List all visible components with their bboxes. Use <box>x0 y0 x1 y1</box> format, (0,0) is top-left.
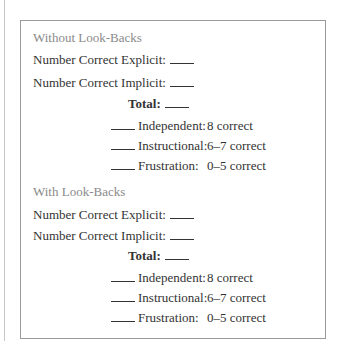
level-row-frustration: Frustration:0–5 correct <box>111 310 266 326</box>
level-label: Frustration: <box>138 158 207 174</box>
independent-blank[interactable] <box>111 119 135 130</box>
explicit-label: Number Correct Explicit: <box>33 52 166 67</box>
implicit-row: Number Correct Implicit: <box>33 75 194 91</box>
implicit-label: Number Correct Implicit: <box>33 228 166 243</box>
instructional-blank[interactable] <box>111 139 135 150</box>
frustration-blank[interactable] <box>111 159 135 170</box>
section-heading-without-lookbacks: Without Look-Backs <box>33 30 142 46</box>
total-row: Total: <box>128 96 189 112</box>
level-label: Instructional: <box>138 138 207 154</box>
level-value: 6–7 correct <box>207 138 266 154</box>
total-blank[interactable] <box>165 249 189 260</box>
level-row-instructional: Instructional:6–7 correct <box>111 138 266 154</box>
level-value: 0–5 correct <box>207 310 266 326</box>
explicit-blank[interactable] <box>170 208 194 219</box>
level-label: Frustration: <box>138 310 207 326</box>
level-value: 8 correct <box>207 118 253 134</box>
level-label: Instructional: <box>138 290 207 306</box>
level-row-instructional: Instructional:6–7 correct <box>111 290 266 306</box>
frustration-blank[interactable] <box>111 311 135 322</box>
total-blank[interactable] <box>165 97 189 108</box>
implicit-row: Number Correct Implicit: <box>33 228 194 244</box>
total-label: Total: <box>128 96 161 111</box>
instructional-blank[interactable] <box>111 291 135 302</box>
independent-blank[interactable] <box>111 271 135 282</box>
level-row-frustration: Frustration:0–5 correct <box>111 158 266 174</box>
total-row: Total: <box>128 248 189 264</box>
explicit-row: Number Correct Explicit: <box>33 52 194 68</box>
level-value: 8 correct <box>207 270 253 286</box>
level-value: 6–7 correct <box>207 290 266 306</box>
section-heading-with-lookbacks: With Look-Backs <box>33 184 125 200</box>
implicit-blank[interactable] <box>170 229 194 240</box>
level-label: Independent: <box>138 270 207 286</box>
level-label: Independent: <box>138 118 207 134</box>
implicit-blank[interactable] <box>170 76 194 87</box>
total-label: Total: <box>128 248 161 263</box>
page-margin-rule <box>4 0 5 341</box>
level-row-independent: Independent:8 correct <box>111 118 253 134</box>
level-value: 0–5 correct <box>207 158 266 174</box>
explicit-row: Number Correct Explicit: <box>33 207 194 223</box>
implicit-label: Number Correct Implicit: <box>33 75 166 90</box>
explicit-label: Number Correct Explicit: <box>33 207 166 222</box>
level-row-independent: Independent:8 correct <box>111 270 253 286</box>
explicit-blank[interactable] <box>170 53 194 64</box>
